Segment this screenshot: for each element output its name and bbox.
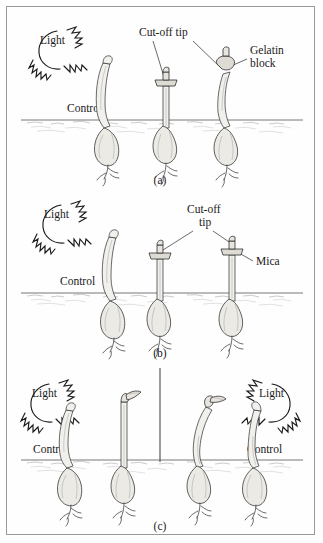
label-control-b: Control xyxy=(60,275,95,287)
label-light-c-left: Light xyxy=(32,387,58,400)
plant-mica-left-b xyxy=(147,240,171,358)
caption-a: (a) xyxy=(154,174,167,187)
plant-control-c-left xyxy=(57,403,82,526)
plant-control-b xyxy=(100,230,125,359)
plant-control-a xyxy=(94,56,119,186)
label-gelatin-line1: Gelatin xyxy=(250,44,284,56)
leader-cutoff-tip-a-left xyxy=(153,41,164,77)
label-light-a: Light xyxy=(40,34,66,47)
plant-mica-right-b xyxy=(219,236,243,358)
leader-cutoff-tip-b-left xyxy=(163,231,193,250)
figure-root: Light Control Cut-off tip Gelatin block xyxy=(0,0,323,543)
label-cutoff-tip-b-line1: Cut-off xyxy=(187,203,221,215)
plant-shaded-c-right xyxy=(187,396,226,525)
label-gelatin-line2: block xyxy=(250,57,276,69)
panel-c: Light Light Control Control xyxy=(7,362,314,534)
label-light-b: Light xyxy=(44,208,70,221)
label-cutoff-tip-b-line2: tip xyxy=(199,216,211,229)
caption-c: (c) xyxy=(154,520,167,533)
plant-shaded-c-left xyxy=(111,391,141,525)
plant-decapitated-a xyxy=(153,67,177,185)
label-mica: Mica xyxy=(256,255,280,267)
label-light-c-right: Light xyxy=(259,387,285,400)
panel-b: Light Control Cut-off tip Mica xyxy=(7,189,314,361)
plant-gelatin-a xyxy=(214,47,238,187)
panel-a: Light Control Cut-off tip Gelatin block xyxy=(7,8,314,188)
caption-b: (b) xyxy=(153,347,167,360)
label-cutoff-tip-a: Cut-off tip xyxy=(139,26,188,39)
